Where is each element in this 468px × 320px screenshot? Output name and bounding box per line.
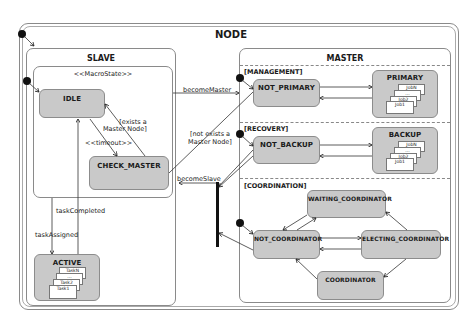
transition-task-assigned-label: taskAssigned (35, 231, 78, 239)
transition-become-master-label: becomeMaster (183, 86, 231, 94)
transition-not-exists-master-label-2: Master Node] (185, 138, 235, 146)
transition-lines (0, 0, 468, 320)
transition-exists-master-label-2: Master Node] (103, 125, 143, 133)
transition-timeout-label: <<timeout>> (85, 139, 132, 147)
transition-become-slave-label: becomeSlave (177, 175, 221, 183)
transition-not-exists-master-label-1: [not exists a (185, 130, 235, 138)
transition-task-completed-label: taskCompleted (56, 207, 105, 215)
